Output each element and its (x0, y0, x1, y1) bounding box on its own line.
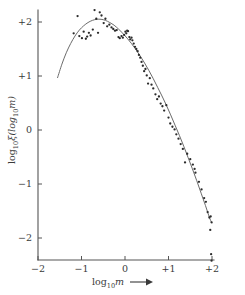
x-tick-label: 0 (122, 263, 128, 274)
data-point (180, 143, 182, 145)
data-point (76, 15, 78, 17)
data-point (149, 77, 151, 79)
data-point (210, 221, 212, 223)
data-point (207, 211, 209, 213)
data-point (144, 68, 146, 70)
data-point (83, 31, 85, 33)
data-point (104, 18, 106, 20)
data-point (140, 61, 142, 63)
data-point (130, 37, 132, 39)
x-axis-ticks (38, 256, 212, 260)
y-title-log: log (6, 149, 17, 164)
x-tick-label: +2 (205, 263, 219, 274)
data-point (203, 197, 205, 199)
data-point (152, 87, 154, 89)
data-point (133, 42, 135, 44)
data-point (184, 161, 186, 163)
y-tick-label: −1 (18, 178, 32, 189)
data-point (135, 48, 137, 50)
data-point (81, 37, 83, 39)
data-point (177, 137, 179, 139)
data-point (106, 25, 108, 27)
x-title-variable: m (115, 276, 124, 287)
data-point (209, 229, 211, 231)
data-point (161, 105, 163, 107)
data-point (146, 74, 148, 76)
x-axis-title: log10m (92, 276, 153, 290)
fitted-curve (58, 19, 212, 223)
data-point (139, 56, 141, 58)
data-point (97, 32, 99, 34)
data-point (194, 172, 196, 174)
data-point (128, 36, 130, 38)
x-tick-label: −1 (74, 263, 88, 274)
data-point (88, 32, 90, 34)
y-axis-title: log10ξ(log10m) (6, 96, 20, 164)
data-point (136, 50, 138, 52)
data-point (192, 163, 194, 165)
y-tick-label: +1 (18, 70, 32, 81)
svg-text:log10m: log10m (92, 276, 124, 290)
data-point (85, 38, 87, 40)
data-point (169, 122, 171, 124)
data-point (131, 39, 133, 41)
data-point (143, 70, 145, 72)
data-point (92, 28, 94, 30)
x-axis-arrow-icon (146, 279, 153, 286)
data-point (173, 128, 175, 130)
data-point (93, 9, 95, 11)
y-tick-label: 0 (26, 124, 32, 135)
data-point (108, 24, 110, 26)
data-point (127, 30, 129, 32)
y-title-variable: m) (6, 96, 17, 109)
data-point (116, 29, 118, 31)
data-point (150, 83, 152, 85)
data-point (125, 32, 127, 34)
data-point (167, 116, 169, 118)
data-point (154, 93, 156, 95)
y-title-subscript-2: 10 (12, 109, 20, 117)
y-axis-ticks (38, 22, 42, 238)
data-point (175, 133, 177, 135)
data-points (73, 9, 213, 262)
data-point (160, 102, 162, 104)
data-point (193, 168, 195, 170)
data-point (134, 46, 136, 48)
data-point (186, 153, 188, 155)
y-title-function: ξ(log (6, 117, 17, 141)
data-point (205, 201, 207, 203)
data-point (110, 26, 112, 28)
x-title-log: log (92, 276, 107, 287)
data-point (210, 215, 212, 217)
data-point (142, 65, 144, 67)
y-axis-tick-labels: +2+10−1−2 (18, 16, 32, 243)
data-point (210, 253, 212, 255)
figure-container: −2−10+1+2 +2+10−1−2 log10m log10ξ(log10m… (0, 0, 245, 295)
data-point (165, 104, 167, 106)
x-tick-label: −2 (31, 263, 45, 274)
svg-text:log10ξ(log10m): log10ξ(log10m) (6, 96, 20, 164)
data-point (198, 181, 200, 183)
data-point (156, 98, 158, 100)
data-point (99, 11, 101, 13)
x-title-subscript: 10 (107, 282, 115, 290)
data-point (112, 28, 114, 30)
data-point (158, 95, 160, 97)
data-point (210, 260, 212, 262)
data-point (182, 148, 184, 150)
data-point (147, 82, 149, 84)
data-point (200, 188, 202, 190)
data-point (78, 35, 80, 37)
y-tick-label: +2 (18, 16, 32, 27)
y-title-subscript: 10 (12, 141, 20, 149)
data-point (138, 54, 140, 56)
data-point (95, 18, 97, 20)
data-point (86, 35, 88, 37)
y-tick-label: −2 (18, 232, 32, 243)
data-point (89, 34, 91, 36)
data-point (100, 14, 102, 16)
data-point (171, 126, 173, 128)
data-point (163, 109, 165, 111)
scatter-plot: −2−10+1+2 +2+10−1−2 log10m log10ξ(log10m… (0, 0, 245, 295)
x-axis-tick-labels: −2−10+1+2 (31, 263, 219, 274)
